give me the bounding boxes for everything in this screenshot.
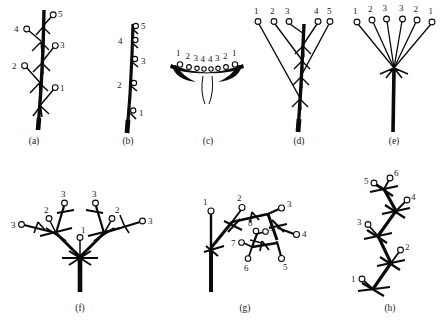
caption-g: (g)	[231, 303, 259, 313]
caption-e: (e)	[380, 136, 408, 146]
flower-h-6	[387, 175, 393, 181]
flower-h-1	[359, 276, 365, 282]
flower-label-h-1: 1	[351, 274, 356, 284]
flower-h-5	[371, 180, 377, 186]
flower-h-3	[365, 222, 371, 228]
flower-label-h-4: 4	[411, 192, 416, 202]
flower-label-h-3: 3	[357, 217, 362, 227]
flower-h-4	[404, 197, 410, 203]
caption-d: (d)	[285, 136, 313, 146]
zigzag-axis-h	[373, 189, 396, 289]
panel-h-scorpioid-cyme: 1 2 3 4 5	[0, 0, 443, 327]
flower-label-h-2: 2	[405, 242, 410, 252]
flower-h-2	[398, 247, 404, 253]
caption-c: (c)	[194, 136, 222, 146]
caption-b: (b)	[114, 136, 142, 146]
panel-h-drawing: 1 2 3 4 5	[351, 168, 416, 296]
caption-a: (a)	[20, 136, 48, 146]
caption-h: (h)	[376, 303, 404, 313]
caption-f: (f)	[66, 303, 94, 313]
flower-label-h-6: 6	[394, 168, 399, 178]
inflorescence-figure: 1 2 3 4 5	[0, 0, 443, 327]
flower-label-h-5: 5	[364, 176, 369, 186]
